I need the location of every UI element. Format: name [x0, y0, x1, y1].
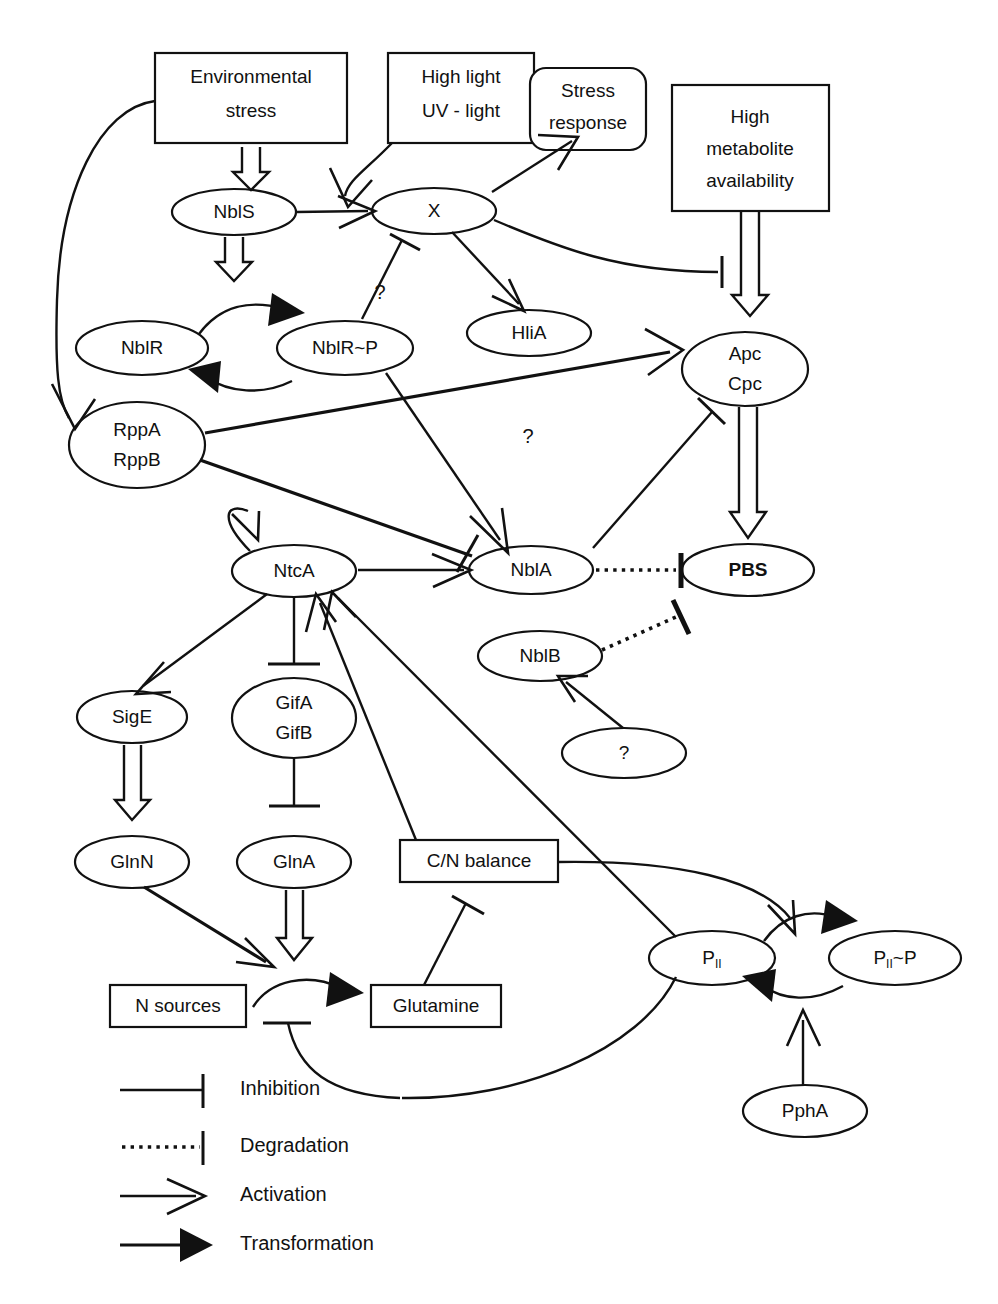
edge-metabolite-to-apc	[732, 212, 768, 316]
node-pii-p: PII~P	[829, 931, 961, 985]
nblr-p-label: NblR~P	[312, 337, 378, 358]
glna-label: GlnA	[273, 851, 316, 872]
edge-ppha-to-piicycle	[787, 1010, 820, 1085]
edge-envstress-to-rpp	[52, 101, 155, 429]
ntca-label: NtcA	[273, 560, 315, 581]
edge-ntca-to-nbla	[358, 554, 471, 587]
edge-x-inhibits-metabolite-path	[494, 220, 722, 288]
glutamine-label: Glutamine	[393, 995, 480, 1016]
gif-line1: GifA	[276, 692, 313, 713]
node-unknown-source: ?	[562, 728, 686, 778]
pii-label: P	[702, 947, 715, 968]
ppha-label: PphA	[782, 1100, 829, 1121]
node-n-sources: N sources	[110, 985, 246, 1027]
pii-subscript: II	[715, 957, 722, 971]
edge-nsources-to-glutamine-transform	[253, 972, 364, 1007]
legend-item-degradation: Degradation	[122, 1131, 349, 1165]
edge-ntca-self-loop	[229, 509, 259, 551]
high-metabolite-line3: availability	[706, 170, 794, 191]
apc-line1: Apc	[729, 343, 762, 364]
svg-text:PII~P: PII~P	[873, 947, 916, 971]
stress-response-line2: response	[549, 112, 627, 133]
q-label-nblrp-x: ?	[374, 281, 385, 303]
n-sources-label: N sources	[135, 995, 221, 1016]
nblb-label: NblB	[519, 645, 560, 666]
rpp-line2: RppB	[113, 449, 161, 470]
legend-label-activation: Activation	[240, 1183, 327, 1205]
edge-piip-to-pii-transform	[742, 969, 843, 1002]
node-nblb: NblB	[478, 631, 602, 681]
node-glnn: GlnN	[75, 836, 189, 888]
pii-p-subscript: II	[886, 957, 893, 971]
node-gifa-gifb: GifA GifB	[232, 678, 356, 758]
edge-envstress-to-nbls	[233, 147, 269, 190]
high-metabolite-line2: metabolite	[706, 138, 794, 159]
legend-label-degradation: Degradation	[240, 1134, 349, 1156]
node-nblr-p: NblR~P	[277, 321, 413, 375]
q-label-rpp-apc: ?	[522, 425, 533, 447]
edge-nblrp-inhibits-x: ?	[362, 234, 420, 319]
edge-nblb-degrades-pbs	[602, 600, 689, 650]
edge-glutamine-inhibits-cnbalance	[424, 896, 484, 985]
node-hlia: HliA	[467, 310, 591, 356]
edge-nbls-to-x	[296, 196, 375, 228]
legend-label-transformation: Transformation	[240, 1232, 374, 1254]
edge-nblr-to-nblrp-transform	[199, 293, 305, 334]
edge-x-to-hlia	[452, 232, 524, 311]
edge-sige-to-glnn	[115, 745, 150, 820]
stress-response-line1: Stress	[561, 80, 615, 101]
glnn-label: GlnN	[110, 851, 153, 872]
node-glutamine: Glutamine	[371, 985, 501, 1027]
node-ntca: NtcA	[232, 545, 356, 597]
sige-label: SigE	[112, 706, 152, 727]
legend-label-inhibition: Inhibition	[240, 1077, 320, 1099]
node-sige: SigE	[77, 691, 187, 743]
apc-line2: Cpc	[728, 373, 762, 394]
edge-nblrp-to-nblr-transform	[188, 361, 292, 393]
edge-nblrp-to-nbla	[386, 373, 508, 553]
pbs-label: PBS	[728, 559, 767, 580]
environmental-stress-line2: stress	[226, 100, 277, 121]
nblr-label: NblR	[121, 337, 163, 358]
legend: Inhibition Degradation Activation Transf…	[120, 1074, 374, 1262]
edge-unknown-to-nblb	[558, 676, 623, 728]
pii-p-label: P	[873, 947, 886, 968]
diagram-canvas: Environmental stress High light UV - lig…	[0, 0, 998, 1304]
node-high-light: High light UV - light	[388, 53, 534, 143]
node-nblr: NblR	[76, 321, 208, 375]
high-light-line2: UV - light	[422, 100, 501, 121]
edge-nbla-inhibits-apc	[593, 398, 725, 548]
pii-p-tail: ~P	[893, 947, 917, 968]
hlia-label: HliA	[512, 322, 547, 343]
high-metabolite-line1: High	[730, 106, 769, 127]
rpp-line1: RppA	[113, 419, 161, 440]
edge-cnbalance-to-pii	[558, 862, 795, 934]
node-nbls: NblS	[172, 189, 296, 235]
node-apc-cpc: Apc Cpc	[682, 332, 808, 406]
node-pbs: PBS	[682, 544, 814, 596]
edge-ntca-to-sige	[136, 594, 267, 694]
nbls-label: NblS	[213, 201, 254, 222]
pathway-diagram: Environmental stress High light UV - lig…	[0, 0, 998, 1304]
node-cn-balance: C/N balance	[400, 840, 558, 882]
edge-nbla-degrades-pbs	[596, 553, 681, 588]
nbla-label: NblA	[510, 559, 552, 580]
x-label: X	[428, 200, 441, 221]
node-stress-response: Stress response	[530, 68, 646, 150]
node-nbla: NblA	[469, 546, 593, 594]
legend-item-activation: Activation	[120, 1179, 327, 1214]
node-rppa-rppb: RppA RppB	[69, 402, 205, 488]
node-x: X	[372, 188, 496, 234]
unknown-source-label: ?	[619, 742, 630, 763]
node-high-metabolite-availability: High metabolite availability	[672, 85, 829, 211]
high-light-line1: High light	[421, 66, 501, 87]
environmental-stress-line1: Environmental	[190, 66, 311, 87]
node-ppha: PphA	[743, 1085, 867, 1137]
edge-nbls-to-nblrcycle	[216, 237, 252, 281]
edge-glnn-to-conversion	[144, 887, 274, 967]
edge-apc-to-pbs	[730, 407, 766, 538]
legend-item-inhibition: Inhibition	[120, 1074, 320, 1108]
edge-gif-inhibits-glna	[269, 759, 320, 806]
gif-line2: GifB	[276, 722, 313, 743]
legend-item-transformation: Transformation	[120, 1228, 374, 1262]
